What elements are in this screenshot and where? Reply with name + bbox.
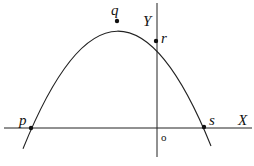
point-s <box>202 125 206 129</box>
point-q <box>115 19 119 23</box>
point-r <box>154 39 158 43</box>
label-origin: o <box>161 131 167 143</box>
label-s: s <box>209 112 215 128</box>
parabola-curve <box>23 31 211 149</box>
label-p: p <box>18 112 27 128</box>
point-p <box>29 126 33 130</box>
parabola-diagram: q Y r p s X o <box>0 0 254 166</box>
label-y-axis: Y <box>143 13 153 29</box>
label-r: r <box>161 30 167 46</box>
label-x-axis: X <box>237 112 248 128</box>
label-q: q <box>111 2 119 18</box>
